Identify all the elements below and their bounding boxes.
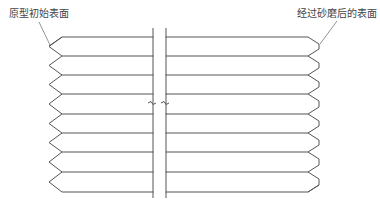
break-gap bbox=[148, 26, 169, 200]
left-edge-zigzag bbox=[49, 37, 62, 192]
layer-lines bbox=[62, 37, 308, 192]
leader-lines bbox=[39, 21, 337, 45]
layer-profile-diagram bbox=[0, 0, 380, 203]
leader-right bbox=[320, 21, 337, 44]
right-edge-chamfer bbox=[308, 37, 319, 192]
leader-left bbox=[39, 22, 50, 45]
